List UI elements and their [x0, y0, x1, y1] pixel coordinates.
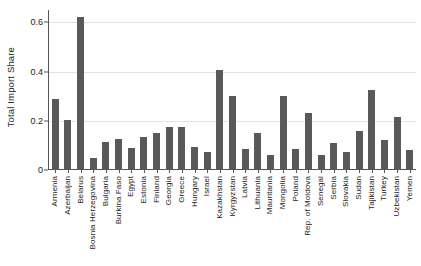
- x-label-slot: Rep. of Moldova: [302, 176, 315, 266]
- y-axis-title-label: Total Import Share: [5, 47, 16, 127]
- x-tick-mark: [93, 170, 94, 173]
- x-tick-label: Bosnia Herzegovina: [89, 176, 97, 249]
- bar-chart: Total Import Share 00.20.40.6 ArmeniaAze…: [0, 0, 421, 266]
- bar: [166, 127, 173, 170]
- x-tick-label: Burkina Faso: [115, 176, 123, 224]
- x-tick-mark: [220, 170, 221, 173]
- x-label-slot: Finland: [150, 176, 163, 266]
- x-label-slot: Belarus: [74, 176, 87, 266]
- x-label-slot: Mauritania: [264, 176, 277, 266]
- plot-area: [48, 10, 416, 173]
- x-tick-mark: [346, 170, 347, 173]
- bar-slot: [378, 10, 391, 170]
- bar-slot: [176, 10, 189, 170]
- x-label-slot: Poland: [289, 176, 302, 266]
- bar: [330, 143, 337, 170]
- bar-slot: [340, 10, 353, 170]
- x-label-slot: Georgia: [163, 176, 176, 266]
- x-tick-label: Turkey: [380, 176, 388, 201]
- x-tick-mark: [270, 170, 271, 173]
- bar: [77, 17, 84, 170]
- y-axis-title: Total Import Share: [0, 0, 20, 175]
- x-tick-label: Uzbekistan: [393, 176, 401, 217]
- x-tick-mark: [321, 170, 322, 173]
- bar: [356, 131, 363, 170]
- y-axis-tick-labels: 00.20.40.6: [18, 10, 48, 173]
- x-tick-label: Senegal: [317, 176, 325, 206]
- y-tick-label: 0.2: [30, 116, 43, 126]
- bar-slot: [62, 10, 75, 170]
- x-label-slot: Latvia: [239, 176, 252, 266]
- x-label-slot: Serbia: [327, 176, 340, 266]
- bar-slot: [302, 10, 315, 170]
- bar: [128, 148, 135, 170]
- x-label-slot: Hungary: [188, 176, 201, 266]
- y-tick-label: 0.6: [30, 17, 43, 27]
- x-tick-label: Azerbaijan: [64, 176, 72, 215]
- x-tick-label: Kyrgyzstan: [229, 176, 237, 217]
- x-tick-label: Sudan: [355, 176, 363, 200]
- x-label-slot: Greece: [176, 176, 189, 266]
- bar-slot: [100, 10, 113, 170]
- x-tick-mark: [334, 170, 335, 173]
- bar-slot: [277, 10, 290, 170]
- bar-slot: [365, 10, 378, 170]
- x-label-slot: Sudan: [353, 176, 366, 266]
- x-tick-label: Finland: [153, 176, 161, 203]
- x-label-slot: Kyrgyzstan: [226, 176, 239, 266]
- bar: [242, 149, 249, 170]
- bar: [52, 99, 59, 170]
- bar-slot: [125, 10, 138, 170]
- x-tick-mark: [106, 170, 107, 173]
- x-tick-label: Yemen: [406, 176, 414, 201]
- x-tick-label: Slovakia: [342, 176, 350, 207]
- x-tick-mark: [157, 170, 158, 173]
- y-tick-label: 0: [38, 165, 43, 175]
- bar: [406, 150, 413, 170]
- bar: [216, 70, 223, 170]
- x-tick-mark: [372, 170, 373, 173]
- bar: [254, 133, 261, 170]
- x-tick-label: Poland: [292, 176, 300, 202]
- x-label-slot: Uzbekistan: [391, 176, 404, 266]
- x-tick-label: Tajikistan: [368, 176, 376, 210]
- x-tick-label: Latvia: [241, 176, 249, 198]
- x-label-slot: Azerbaijan: [62, 176, 75, 266]
- x-tick-mark: [131, 170, 132, 173]
- bar-slot: [403, 10, 416, 170]
- x-tick-mark: [144, 170, 145, 173]
- bar: [381, 140, 388, 170]
- x-tick-label: Mongolia: [279, 176, 287, 209]
- x-tick-mark: [68, 170, 69, 173]
- x-tick-mark: [81, 170, 82, 173]
- x-tick-label: Belarus: [77, 176, 85, 204]
- bar: [368, 90, 375, 170]
- x-label-slot: Yemen: [403, 176, 416, 266]
- x-label-slot: Tajikistan: [365, 176, 378, 266]
- x-tick-mark: [245, 170, 246, 173]
- x-label-slot: Senegal: [315, 176, 328, 266]
- x-label-slot: Kazakhstan: [214, 176, 227, 266]
- x-tick-mark: [397, 170, 398, 173]
- x-label-slot: Estonia: [138, 176, 151, 266]
- bar: [343, 152, 350, 170]
- x-label-slot: Armenia: [49, 176, 62, 266]
- bar: [115, 139, 122, 170]
- x-tick-label: Israel: [203, 176, 211, 196]
- bar-slot: [315, 10, 328, 170]
- bar-slot: [49, 10, 62, 170]
- bar-slot: [138, 10, 151, 170]
- y-tick-label: 0.4: [30, 67, 43, 77]
- bar: [305, 113, 312, 170]
- bar-slot: [112, 10, 125, 170]
- x-tick-label: Armenia: [51, 176, 59, 207]
- x-tick-mark: [233, 170, 234, 173]
- bar: [318, 155, 325, 170]
- bar: [394, 117, 401, 170]
- x-tick-mark: [296, 170, 297, 173]
- x-label-slot: Mongolia: [277, 176, 290, 266]
- x-tick-label: Kazakhstan: [216, 176, 224, 219]
- x-label-slot: Bosnia Herzegovina: [87, 176, 100, 266]
- bar: [102, 142, 109, 170]
- bar-slot: [214, 10, 227, 170]
